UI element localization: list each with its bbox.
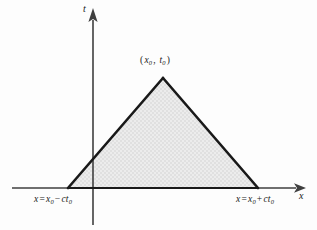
figure-canvas: t x (x0, t0) x=x0−ct0 x=x0+ct0 [0, 0, 317, 230]
left-characteristic-label: x=x0−ct0 [34, 195, 72, 205]
arrow-up-icon [88, 8, 97, 22]
left-equals-sign: = [38, 194, 46, 204]
apex-coordinate-label: (x0, t0) [139, 56, 171, 66]
left-t0-subscript: 0 [69, 198, 72, 205]
x-axis-label: x [299, 191, 304, 201]
right-equals-sign: = [240, 194, 248, 204]
right-characteristic-label: x=x0+ct0 [236, 195, 274, 205]
domain-of-dependence-region [68, 78, 258, 188]
t-axis-label: t [83, 4, 86, 14]
right-t0-subscript: 0 [271, 198, 274, 205]
apex-paren-close: ) [166, 55, 171, 65]
